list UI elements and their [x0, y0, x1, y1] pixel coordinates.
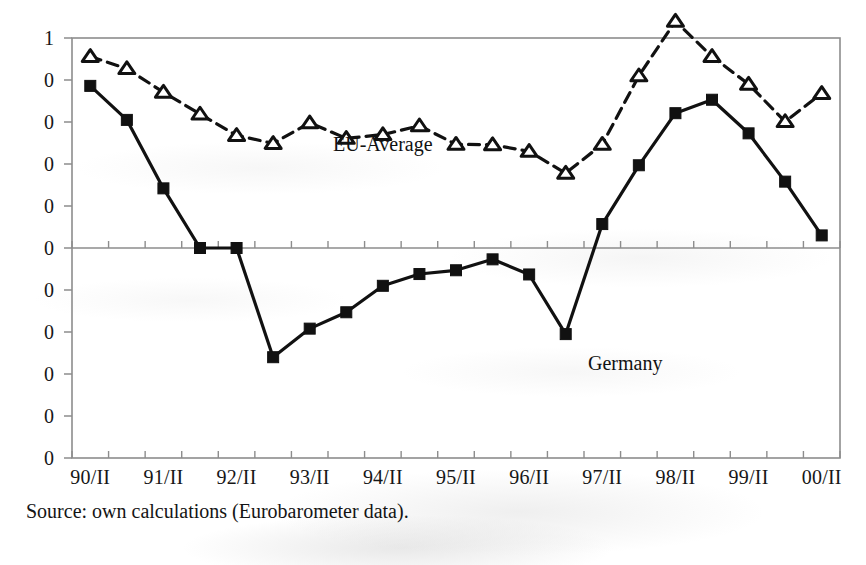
x-axis-tick-label: 98/II [655, 466, 695, 489]
y-axis-tick-label: 0 [0, 321, 54, 344]
data-point-marker-triangle [594, 137, 610, 149]
y-axis-tick-label: 0 [0, 237, 54, 260]
data-point-marker-triangle [302, 116, 318, 128]
source-caption: Source: own calculations (Eurobarometer … [26, 500, 409, 523]
data-point-marker-square [451, 265, 462, 276]
data-point-marker-square [85, 80, 96, 91]
y-axis-tick-label: 0 [0, 111, 54, 134]
data-point-marker-triangle [82, 50, 98, 62]
y-axis-tick-label: 0 [0, 195, 54, 218]
y-axis-tick-label: 1 [0, 27, 54, 50]
x-axis-ticks-bottom [72, 451, 840, 458]
y-axis-tick-label: 0 [0, 405, 54, 428]
series-line [90, 86, 821, 357]
x-axis-tick-label: 91/II [143, 466, 183, 489]
data-point-marker-square [633, 160, 644, 171]
data-point-marker-square [158, 183, 169, 194]
x-axis-tick-label: 94/II [363, 466, 403, 489]
data-series-layer [82, 14, 829, 362]
y-axis-tick-label: 0 [0, 363, 54, 386]
data-point-marker-square [670, 108, 681, 119]
data-point-marker-triangle [448, 137, 464, 149]
data-point-marker-triangle [229, 129, 245, 141]
series-label-eu-average: EU-Average [333, 133, 433, 156]
data-point-marker-triangle [631, 69, 647, 81]
data-point-marker-square [780, 176, 791, 187]
x-axis-ticks-on-zero-line [72, 241, 840, 248]
data-point-marker-square [743, 128, 754, 139]
x-axis-tick-label: 95/II [436, 466, 476, 489]
data-point-marker-square [341, 307, 352, 318]
data-point-marker-triangle [521, 145, 537, 157]
y-axis-tick-label: 0 [0, 69, 54, 92]
data-point-marker-triangle [667, 14, 683, 26]
data-point-marker-square [414, 269, 425, 280]
y-axis-tick-label: 0 [0, 279, 54, 302]
data-point-marker-triangle [814, 87, 830, 99]
series-label-germany: Germany [588, 352, 662, 375]
x-axis-tick-label: 90/II [70, 466, 110, 489]
y-axis-ticks [64, 38, 72, 458]
x-axis-tick-label: 93/II [290, 466, 330, 489]
y-axis-tick-label: 0 [0, 153, 54, 176]
data-point-marker-square [524, 269, 535, 280]
data-point-marker-square [231, 243, 242, 254]
data-point-marker-square [268, 352, 279, 363]
data-point-marker-square [377, 280, 388, 291]
data-point-marker-square [560, 329, 571, 340]
data-point-marker-square [304, 323, 315, 334]
data-point-marker-triangle [704, 50, 720, 62]
data-point-marker-square [707, 94, 718, 105]
scanned-page-background: 10000000000 90/II91/II92/II93/II94/II95/… [0, 0, 866, 565]
x-axis-tick-label: 00/II [802, 466, 842, 489]
data-point-marker-square [597, 219, 608, 230]
x-axis-tick-label: 92/II [217, 466, 257, 489]
data-point-marker-square [487, 254, 498, 265]
data-point-marker-square [195, 243, 206, 254]
data-point-marker-triangle [485, 138, 501, 150]
y-axis-tick-label: 0 [0, 447, 54, 470]
data-point-marker-triangle [411, 119, 427, 131]
series-germany [85, 80, 827, 362]
x-axis-tick-label: 99/II [729, 466, 769, 489]
data-point-marker-triangle [119, 62, 135, 74]
data-point-marker-square [121, 114, 132, 125]
chart-figure: 10000000000 90/II91/II92/II93/II94/II95/… [0, 0, 866, 565]
x-axis-tick-label: 97/II [582, 466, 622, 489]
x-axis-tick-label: 96/II [509, 466, 549, 489]
data-point-marker-square [816, 230, 827, 241]
data-point-marker-triangle [265, 137, 281, 149]
